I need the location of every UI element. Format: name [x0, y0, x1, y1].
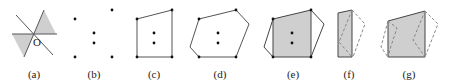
origin-label: O: [33, 36, 41, 48]
panel-label-c: (c): [148, 68, 161, 81]
point: [153, 42, 156, 45]
point: [74, 18, 77, 21]
panel-label-e: (e): [287, 68, 300, 81]
shaded-wedge-upper: [34, 10, 56, 34]
point: [74, 56, 77, 59]
point: [291, 32, 294, 35]
figure: O (a) (b) (c) (d): [0, 0, 449, 84]
panel-label-a: (a): [28, 68, 41, 81]
point: [111, 56, 114, 59]
panel-c: (c): [136, 9, 174, 81]
point: [111, 9, 114, 12]
point: [136, 56, 139, 59]
point: [153, 32, 156, 35]
point: [272, 18, 275, 21]
shaded-quadrilateral: [388, 11, 425, 57]
point: [291, 42, 294, 45]
panel-label-d: (d): [214, 68, 227, 81]
dashed-fold-left-outer: [381, 21, 388, 57]
panel-label-f: (f): [344, 68, 355, 81]
shaded-quadrilateral: [338, 10, 352, 57]
point: [310, 56, 313, 59]
point: [235, 9, 238, 12]
point: [198, 56, 201, 59]
point: [217, 32, 220, 35]
panel-b: (b): [74, 9, 114, 81]
point: [235, 56, 238, 59]
point: [136, 18, 139, 21]
dashed-fold-right-outer: [425, 11, 438, 57]
point: [198, 18, 201, 21]
panel-label-b: (b): [88, 68, 101, 81]
point: [310, 9, 313, 12]
point: [171, 56, 174, 59]
point: [217, 42, 220, 45]
panel-e: (e): [264, 9, 324, 81]
dashed-fold-outer: [352, 10, 365, 57]
point: [272, 56, 275, 59]
shaded-wedge-lower: [12, 34, 34, 57]
hexagon: [190, 10, 249, 57]
point: [93, 42, 96, 45]
point: [93, 32, 96, 35]
point: [171, 9, 174, 12]
panel-g: (g): [381, 11, 438, 81]
panel-d: (d): [190, 9, 249, 81]
panel-a: O (a): [12, 10, 57, 81]
panel-label-g: (g): [403, 68, 416, 81]
panel-f: (f): [338, 10, 365, 81]
